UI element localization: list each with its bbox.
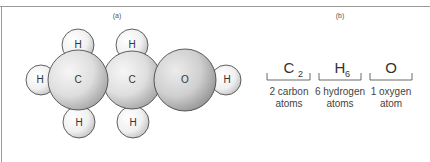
formula-desc-line1: 6 hydrogen [315, 86, 365, 97]
formula-group-carbon: C 2 2 carbon atoms [267, 59, 310, 109]
atom-label: C [128, 74, 135, 85]
formula-desc-line2: atom [380, 98, 402, 109]
formula-group-oxygen: O 1 oxygen atom [370, 59, 412, 109]
atom-o: O [154, 49, 216, 111]
formula-desc-line2: atoms [326, 98, 353, 109]
formula-group-hydrogen: H 6 6 hydrogen atoms [315, 59, 365, 109]
formula-subscript: 2 [298, 69, 303, 79]
atom-label: H [75, 117, 82, 128]
formula-desc-line1: 1 oxygen [371, 86, 412, 97]
atom-label: H [129, 117, 136, 128]
atom-label: H [36, 74, 43, 85]
panel-label-b: (b) [336, 12, 345, 20]
formula-desc-line2: atoms [275, 98, 302, 109]
atom-c1: C [48, 50, 108, 110]
atom-c2: C [103, 51, 161, 109]
atom-label: H [128, 39, 135, 50]
formula-element: C [284, 59, 295, 76]
formula-element: O [385, 59, 397, 76]
atom-h-bottom-2: H [117, 106, 149, 138]
atom-label: H [223, 74, 230, 85]
diagram-canvas: (a) (b) H H H H H H C C O C 2 2 [0, 0, 430, 162]
atom-h-bottom-1: H [63, 106, 95, 138]
formula-desc-line1: 2 carbon [270, 86, 309, 97]
formula-subscript: 6 [345, 69, 350, 79]
formula-element: H [335, 59, 346, 76]
panel-label-a: (a) [113, 12, 122, 20]
atom-label: O [181, 74, 189, 85]
atom-label: H [74, 39, 81, 50]
atom-label: C [74, 74, 81, 85]
